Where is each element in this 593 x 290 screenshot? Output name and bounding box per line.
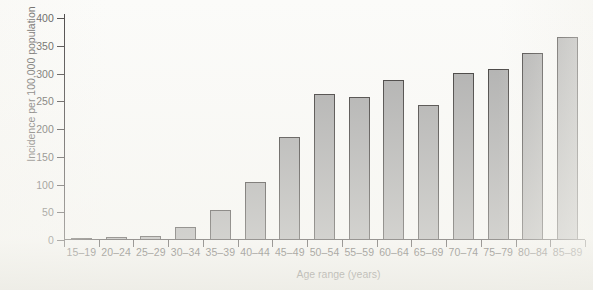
bar: [557, 37, 578, 239]
y-axis-tick: [57, 240, 64, 241]
x-axis-category-label: 15–19: [64, 246, 99, 262]
bar: [245, 182, 266, 239]
bar-slot: [411, 17, 446, 239]
y-axis-tick: [57, 101, 64, 102]
bar: [140, 236, 161, 239]
bar-slot: [307, 17, 342, 239]
bar: [488, 69, 509, 239]
bar: [71, 238, 92, 240]
bar-slot: [377, 17, 412, 239]
x-axis-title-text: Age range (years): [296, 268, 380, 280]
y-axis-tick: [57, 157, 64, 158]
x-axis-tick: [585, 240, 586, 247]
y-axis-tick: [57, 46, 64, 47]
x-axis-title: Age range (years): [0, 268, 593, 280]
x-axis-category-label: 35–39: [203, 246, 238, 262]
x-axis-category-label: 30–34: [168, 246, 203, 262]
y-axis-title-container: Incidence per 100,000 population: [0, 18, 14, 240]
bar-slot: [342, 17, 377, 239]
bar-slot: [446, 17, 481, 239]
bar: [383, 80, 404, 239]
x-axis-category-label: 65–69: [411, 246, 446, 262]
bar: [210, 210, 231, 239]
x-axis-category-label: 40–44: [238, 246, 273, 262]
x-axis-category-label: 25–29: [133, 246, 168, 262]
y-axis-tick-label: 0: [8, 234, 54, 246]
chart-screenshot: 050100150200250300350400 Incidence per 1…: [0, 0, 593, 290]
y-axis-title: Incidence per 100,000 population: [25, 0, 37, 179]
x-axis-category-label: 50–54: [307, 246, 342, 262]
bar-slot: [203, 17, 238, 239]
bar-slot: [550, 17, 585, 239]
bar: [349, 97, 370, 239]
x-axis-category-label: 80–84: [516, 246, 551, 262]
bar-slot: [64, 17, 99, 239]
bar: [106, 237, 127, 239]
bar-slot: [133, 17, 168, 239]
x-axis-category-label: 75–79: [481, 246, 516, 262]
bar-slot: [238, 17, 273, 239]
bar: [314, 94, 335, 239]
y-axis-tick-label: 50: [8, 206, 54, 218]
x-axis-category-label: 60–64: [377, 246, 412, 262]
bar-slot: [99, 17, 134, 239]
bar: [418, 105, 439, 239]
y-axis-tick-label: 100: [8, 179, 54, 191]
x-axis-category-label: 20–24: [99, 246, 134, 262]
y-axis-tick: [57, 129, 64, 130]
x-axis-category-label: 85–89: [550, 246, 585, 262]
bar-series: [64, 17, 585, 239]
bar-slot: [481, 17, 516, 239]
x-axis-category-label: 55–59: [342, 246, 377, 262]
x-axis-category-label: 45–49: [272, 246, 307, 262]
y-axis-tick: [57, 18, 64, 19]
y-axis-tick: [57, 74, 64, 75]
bar-slot: [272, 17, 307, 239]
bar: [453, 73, 474, 239]
plot-area: [64, 18, 585, 240]
bar: [522, 53, 543, 239]
bar-slot: [168, 17, 203, 239]
bar: [175, 227, 196, 239]
x-axis-tick-labels: 15–1920–2425–2930–3435–3940–4445–4950–54…: [64, 246, 585, 262]
bar: [279, 137, 300, 239]
bar-slot: [516, 17, 551, 239]
y-axis-tick: [57, 212, 64, 213]
y-axis-tick: [57, 185, 64, 186]
x-axis-category-label: 70–74: [446, 246, 481, 262]
